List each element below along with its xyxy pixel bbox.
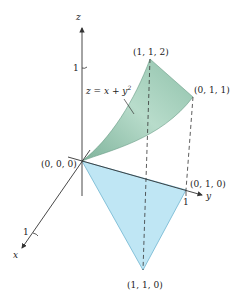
surface-equation-label: z = x + y2 (85, 84, 131, 96)
z-tick-label: 1 (73, 63, 79, 73)
point-label-010: (0, 1, 0) (190, 179, 226, 189)
z-tick (82, 67, 87, 68)
point-label-011: (0, 1, 1) (194, 85, 230, 95)
x-axis-label: x (13, 250, 18, 260)
dashed-line-011 (186, 97, 193, 190)
surface-z-x-plus-y2 (82, 59, 193, 161)
point-label-origin: (0, 0, 0) (41, 159, 77, 169)
y-axis-label: y (205, 191, 212, 201)
x-tick (33, 233, 38, 236)
point-label-110: (1, 1, 0) (127, 280, 163, 290)
z-axis-label: z (75, 12, 81, 22)
base-triangle-region (82, 161, 186, 270)
diagram-canvas: z y x 1 1 1 z = x + y2 (1, 1, 2) (0, 1, … (0, 0, 232, 299)
y-tick-label: 1 (183, 197, 189, 207)
point-label-112: (1, 1, 2) (133, 47, 169, 57)
x-tick-label: 1 (23, 227, 29, 237)
